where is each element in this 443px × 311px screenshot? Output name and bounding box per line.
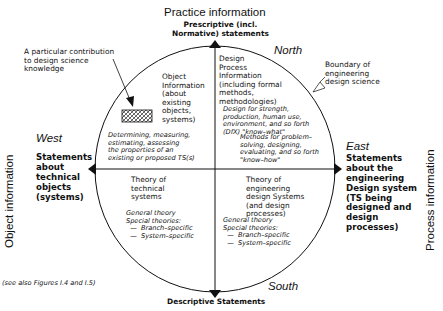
contribution-hatched-box <box>122 110 152 122</box>
west-statements-text: Statements about technical objects (syst… <box>36 153 92 202</box>
practice-information-title: Practice information <box>164 6 266 19</box>
object-information-title: Object information <box>3 155 16 248</box>
nw-quadrant-title: Object Information (about existing objec… <box>162 73 205 124</box>
ne-quadrant-detail-methods: Methods for problem– solving, designing,… <box>240 134 319 164</box>
contribution-arrow-icon <box>126 96 134 107</box>
contribution-pointer-line <box>113 59 130 100</box>
compass-east-label: East <box>346 140 369 153</box>
ne-quadrant-detail-dfx: Design for strength, production, human u… <box>223 106 309 136</box>
sw-quadrant-detail: General theory Special theories: — Branc… <box>126 210 194 240</box>
nw-quadrant-detail: Determining, measuring, estimating, asse… <box>108 132 195 162</box>
se-quadrant-detail: General theory Special theories: — Branc… <box>223 217 291 247</box>
boundary-pointer-icon <box>313 82 325 92</box>
boundary-annotation: Boundary of engineering design science <box>325 61 380 87</box>
compass-west-label: West <box>36 132 62 145</box>
compass-south-label: South <box>268 280 298 293</box>
east-arrow-icon <box>334 163 342 175</box>
north-arrow-icon <box>209 40 221 48</box>
see-also-note: (see also Figures I.4 and I.5) <box>2 280 96 288</box>
contribution-annotation: A particular contribution to design scie… <box>24 48 114 74</box>
descriptive-statements-label: Descriptive Statements <box>167 298 265 307</box>
prescriptive-statements-label: Prescriptive (incl. Normative) statement… <box>172 21 269 38</box>
sw-quadrant-title: Theory of technical systems <box>131 176 166 202</box>
ne-quadrant-title: Design Process Information (including fo… <box>219 55 282 106</box>
east-statements-text: Statements about the engineering Design … <box>346 154 417 233</box>
process-information-title: Process information <box>424 149 437 251</box>
se-quadrant-title: Theory of engineering design Systems (an… <box>246 176 304 219</box>
